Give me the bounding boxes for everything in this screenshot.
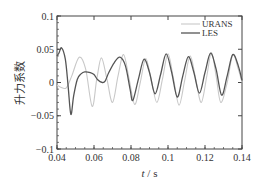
x-tick-label: 0.06	[85, 152, 103, 163]
y-tick-label: −0.05	[31, 110, 54, 121]
x-tick-label: 0.04	[48, 152, 66, 163]
x-tick-label: 0.14	[233, 152, 251, 163]
legend-label-les: LES	[202, 28, 218, 38]
x-tick-label: 0.08	[122, 152, 140, 163]
lift-coefficient-chart: −0.1−0.0500.050.1 0.040.060.080.10.120.1…	[0, 0, 263, 186]
x-tick-label: 0.1	[162, 152, 175, 163]
x-tick-label: 0.12	[196, 152, 214, 163]
x-axis-title: t / s	[142, 167, 158, 179]
legend: URANSLES	[181, 19, 233, 38]
x-axis-title-unit: / s	[145, 167, 158, 179]
y-tick-label: 0	[49, 77, 54, 88]
series-layer	[57, 48, 242, 115]
y-tick-label: 0.1	[42, 11, 55, 22]
series-line-les	[57, 48, 242, 115]
y-axis-title: 升力系数	[14, 61, 27, 105]
y-tick-label: 0.05	[37, 44, 55, 55]
